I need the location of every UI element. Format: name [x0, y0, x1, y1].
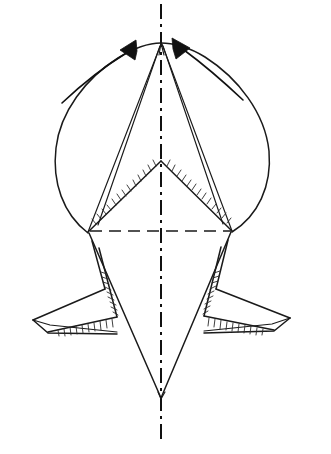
- origami-figure: [0, 0, 331, 454]
- origami-diagram-canvas: Origami Folding Diagram Line-art origami…: [0, 0, 331, 454]
